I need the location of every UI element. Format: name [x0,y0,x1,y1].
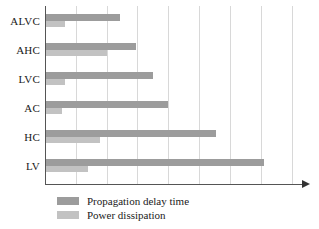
gridline-2 [137,6,138,184]
bar-delay-lvc [45,72,153,79]
bar-power-ac [45,108,62,114]
gridline-4 [199,6,200,184]
bar-delay-ac [45,101,168,108]
legend-swatch-delay-icon [57,197,79,205]
legend-swatch-power-icon [57,211,79,219]
category-label-hc: HC [0,132,40,143]
category-label-ac: AC [0,103,40,114]
bar-delay-hc [45,130,216,137]
bar-delay-alvc [45,14,120,21]
bar-power-lvc [45,79,65,85]
gridline-7 [292,6,293,184]
bar-chart: ALVCAHCLVCACHCLV Propagation delay time … [0,0,319,229]
bar-delay-ahc [45,43,136,50]
gridline-6 [261,6,262,184]
gridline-1 [107,6,108,184]
category-label-lvc: LVC [0,74,40,85]
category-label-ahc: AHC [0,45,40,56]
gridline-0 [76,6,77,184]
chart-legend: Propagation delay time Power dissipation [57,194,189,222]
gridline-3 [168,6,169,184]
legend-item-power: Power dissipation [57,208,189,222]
value-axis-origin-line [45,6,46,185]
legend-label-delay: Propagation delay time [87,195,189,207]
category-label-lv: LV [0,161,40,172]
plot-area [45,6,310,184]
axis-arrow-icon [302,180,310,188]
category-label-alvc: ALVC [0,16,40,27]
value-axis-line [45,184,303,185]
legend-item-delay: Propagation delay time [57,194,189,208]
bar-power-hc [45,137,100,143]
legend-label-power: Power dissipation [87,209,166,221]
bar-power-lv [45,166,88,172]
bar-delay-lv [45,159,264,166]
gridline-5 [230,6,231,184]
bar-power-alvc [45,21,65,27]
bar-power-ahc [45,50,107,56]
